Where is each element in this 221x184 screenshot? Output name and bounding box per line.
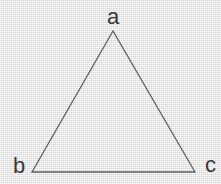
vertex-label-a: a <box>107 6 119 28</box>
triangle-figure: a b c <box>0 0 221 184</box>
vertex-label-b: b <box>13 155 25 177</box>
vertex-label-c: c <box>205 154 216 176</box>
triangle-outline <box>32 31 195 172</box>
